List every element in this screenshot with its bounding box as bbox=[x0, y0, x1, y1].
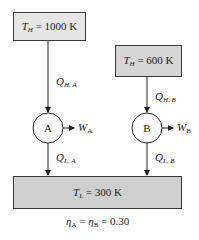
hot-reservoir-b: TH = 600 K bbox=[115, 45, 182, 77]
hot-reservoir-b-label: TH = 600 K bbox=[123, 54, 173, 68]
heat-out-b-label: QL, B bbox=[155, 152, 175, 165]
heat-in-a-label: QH, A bbox=[56, 76, 77, 89]
hot-reservoir-a-label: TH = 1000 K bbox=[22, 20, 78, 34]
cold-reservoir-label: TL = 300 K bbox=[73, 186, 122, 200]
heat-out-a-label: QL, A bbox=[56, 152, 76, 165]
engine-b-label: B bbox=[132, 122, 162, 134]
engine-a-label: A bbox=[33, 122, 63, 134]
cold-reservoir: TL = 300 K bbox=[13, 176, 182, 209]
efficiency-caption: ηA = ηB = 0.30 bbox=[66, 216, 129, 229]
hot-reservoir-a: TH = 1000 K bbox=[13, 12, 86, 41]
work-a-label: WA bbox=[78, 122, 92, 135]
heat-in-b-label: QH, B bbox=[155, 91, 176, 104]
work-b-label: WB bbox=[177, 122, 191, 135]
